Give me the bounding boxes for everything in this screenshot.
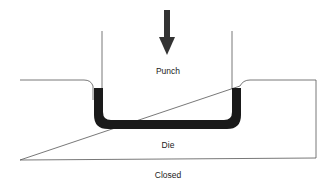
- die-label: Die: [162, 140, 175, 150]
- punch-label: Punch: [156, 66, 180, 76]
- drawing-diagram: [0, 0, 333, 187]
- arrow-down-icon: [159, 10, 175, 55]
- state-caption: Closed: [155, 170, 181, 180]
- drawn-blank: [94, 88, 241, 129]
